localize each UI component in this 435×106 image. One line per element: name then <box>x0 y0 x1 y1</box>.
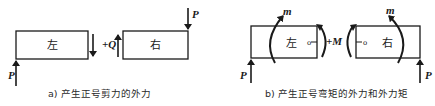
bending-arc-left-icon <box>320 26 326 57</box>
right-segment-label-b: 右 <box>382 36 393 50</box>
caption-b: b) 产生正号弯矩的外力和外力矩 <box>265 88 408 99</box>
caption-a: a) 产生正号剪力的外力 <box>48 88 151 99</box>
bending-label: +M <box>326 35 343 47</box>
moment-m-left-label: m <box>283 5 292 17</box>
panel-b-bending: 左 m o +M o 右 m P P b) 产生正号弯矩的外力和外力矩 <box>240 4 432 99</box>
force-p-right-label: P <box>192 8 199 20</box>
right-segment-label: 右 <box>150 38 161 52</box>
force-p-left-label-b: P <box>240 69 247 81</box>
bending-arc-right-icon <box>347 26 353 57</box>
left-segment-label-b: 左 <box>286 37 297 50</box>
shear-label: +Q <box>102 38 116 50</box>
moment-m-right-label: m <box>386 4 395 16</box>
left-segment-label: 左 <box>47 39 58 52</box>
force-p-left-label: P <box>8 69 15 81</box>
center-mark-right: o <box>363 39 367 47</box>
diagram-canvas: 左 P +Q 右 P a) 产生正号剪力的外力 左 m o +M <box>0 0 435 106</box>
force-p-right-label-b: P <box>425 69 432 81</box>
center-mark-left: o <box>307 39 311 47</box>
panel-a-shear: 左 P +Q 右 P a) 产生正号剪力的外力 <box>8 8 199 99</box>
